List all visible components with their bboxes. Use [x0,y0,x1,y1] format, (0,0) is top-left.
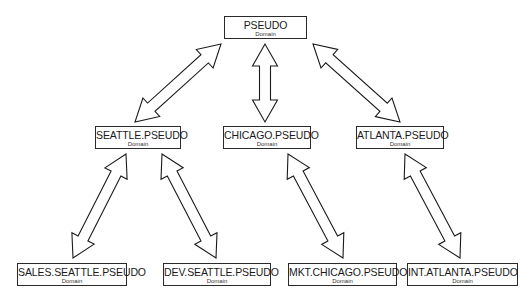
node-sales-seattle: SALES.SEATTLE.PSEUDO Domain [17,263,127,286]
node-atlanta: ATLANTA.PSEUDO Domain [356,126,444,149]
node-type: Domain [96,141,180,148]
node-name: ATLANTA.PSEUDO [357,129,443,141]
node-dev-seattle: DEV.SEATTLE.PSEUDO Domain [163,263,271,286]
node-name: DEV.SEATTLE.PSEUDO [164,266,270,278]
node-mkt-chicago: MKT.CHICAGO.PSEUDO Domain [288,263,397,286]
node-name: SEATTLE.PSEUDO [96,129,180,141]
node-name: CHICAGO.PSEUDO [224,129,310,141]
node-int-atlanta: INT.ATLANTA.PSEUDO Domain [407,263,518,286]
trust-arrow-pseudo-chicago [253,44,278,122]
trust-arrow-atlanta-int-atlanta [404,154,461,258]
node-type: Domain [224,141,310,148]
trust-arrow-pseudo-seattle [135,44,221,122]
node-name: PSEUDO [225,19,306,31]
node-seattle: SEATTLE.PSEUDO Domain [95,126,181,149]
node-pseudo: PSEUDO Domain [224,16,307,39]
node-name: SALES.SEATTLE.PSEUDO [18,266,126,278]
node-type: Domain [408,278,517,285]
trust-arrows-layer [0,0,530,299]
trust-arrow-pseudo-atlanta [313,44,400,122]
node-name: MKT.CHICAGO.PSEUDO [289,266,396,278]
node-type: Domain [18,278,126,285]
node-type: Domain [225,31,306,38]
trust-arrow-seattle-dev-seattle [161,154,217,258]
node-name: INT.ATLANTA.PSEUDO [408,266,517,278]
node-chicago: CHICAGO.PSEUDO Domain [223,126,311,149]
node-type: Domain [289,278,396,285]
node-type: Domain [357,141,443,148]
node-type: Domain [164,278,270,285]
trust-arrow-chicago-mkt-chicago [287,154,344,258]
trust-arrow-seattle-sales-seattle [72,154,127,258]
